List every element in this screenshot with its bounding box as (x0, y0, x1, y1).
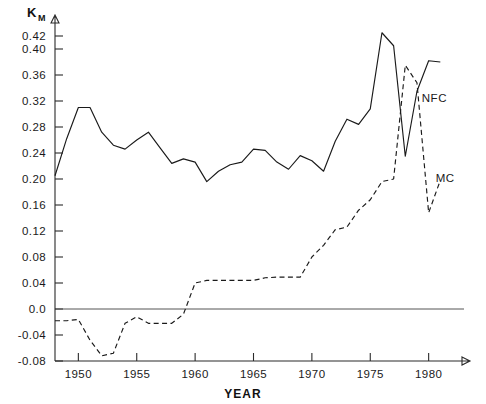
x-axis-line (55, 357, 470, 365)
x-tick-label: 1950 (65, 368, 92, 380)
x-axis-tick-marks (78, 353, 428, 361)
y-axis-tick-marks (55, 36, 63, 361)
y-axis-title: K (27, 5, 37, 20)
y-tick-label: 0.04 (22, 277, 46, 289)
y-tick-label: 0.28 (22, 121, 46, 133)
x-tick-label: 1960 (182, 368, 209, 380)
x-axis-tick-labels: 1950195519601965197019751980 (65, 368, 442, 380)
x-axis-title: YEAR (224, 387, 261, 401)
y-tick-label: -0.04 (18, 329, 46, 341)
y-axis-tick-labels: -0.08-0.040.00.040.080.120.160.200.240.2… (18, 30, 46, 367)
y-tick-label: 0.24 (22, 147, 46, 159)
x-tick-label: 1975 (357, 368, 384, 380)
y-tick-label: 0.20 (22, 173, 46, 185)
y-tick-label: 0.08 (22, 251, 46, 263)
series-label-nfc: NFC (422, 92, 447, 104)
x-tick-label: 1965 (240, 368, 267, 380)
x-tick-label: 1955 (123, 368, 150, 380)
x-tick-label: 1970 (298, 368, 325, 380)
y-tick-label: 0.12 (22, 225, 46, 237)
y-tick-label: 0.42 (22, 30, 46, 42)
y-tick-label: 0.16 (22, 199, 46, 211)
series-inline-labels: NFCMC (422, 92, 455, 183)
y-tick-label: -0.08 (18, 355, 46, 367)
y-tick-label: 0.0 (29, 303, 46, 315)
y-tick-label: 0.40 (22, 43, 46, 55)
y-axis-title-subscript: M (38, 13, 46, 23)
line-chart: -0.08-0.040.00.040.080.120.160.200.240.2… (0, 0, 486, 404)
series-label-mc: MC (436, 172, 455, 184)
series-line-mc (55, 65, 440, 356)
x-tick-label: 1980 (415, 368, 442, 380)
y-tick-label: 0.32 (22, 95, 46, 107)
series-line-nfc (55, 33, 440, 182)
y-tick-label: 0.36 (22, 69, 46, 81)
chart-container: -0.08-0.040.00.040.080.120.160.200.240.2… (0, 0, 486, 404)
